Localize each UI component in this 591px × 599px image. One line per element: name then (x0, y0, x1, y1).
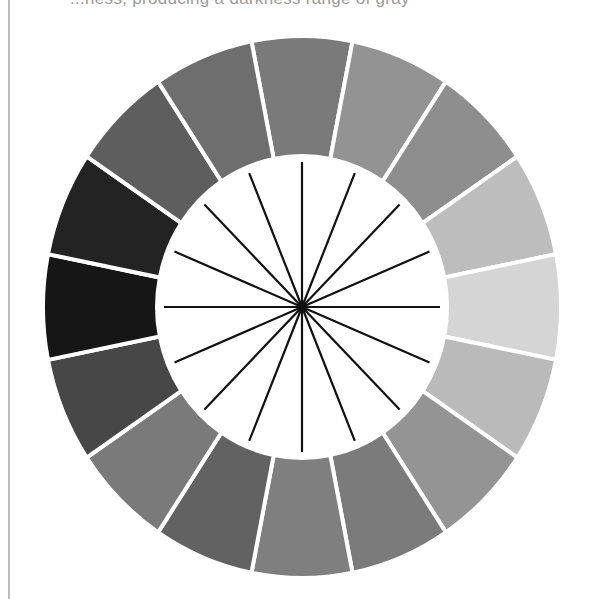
gray-value-wheel (0, 0, 591, 599)
wheel-hub (298, 303, 306, 311)
wheel-spoke (204, 204, 302, 307)
wheel-spoke (302, 204, 400, 307)
wheel-spoke (204, 307, 302, 410)
wheel-spoke (302, 307, 400, 410)
